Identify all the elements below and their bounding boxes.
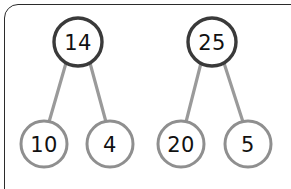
connector-right-whole-to-part-1 (224, 63, 243, 122)
part-value-left-0: 10 (30, 133, 58, 157)
bond-left: 14 10 4 (21, 18, 133, 167)
bond-right: 25 20 5 (158, 18, 271, 167)
connector-right-whole-to-part-0 (186, 63, 201, 122)
part-node-right-1[interactable]: 5 (225, 121, 271, 167)
whole-node-right[interactable]: 25 (188, 18, 236, 66)
part-node-left-1[interactable]: 4 (87, 121, 133, 167)
whole-node-left[interactable]: 14 (54, 18, 102, 66)
whole-value-right: 25 (198, 31, 226, 55)
connector-left-whole-to-part-0 (49, 63, 66, 122)
number-bond-diagram: 14 10 4 25 20 (0, 0, 291, 189)
connector-left-whole-to-part-1 (90, 63, 106, 122)
part-node-right-0[interactable]: 20 (158, 121, 204, 167)
part-value-right-0: 20 (167, 133, 195, 157)
whole-value-left: 14 (64, 31, 92, 55)
part-value-left-1: 4 (103, 133, 117, 157)
number-bond-worksheet: 14 10 4 25 20 (0, 0, 291, 189)
part-value-right-1: 5 (241, 133, 255, 157)
part-node-left-0[interactable]: 10 (21, 121, 67, 167)
